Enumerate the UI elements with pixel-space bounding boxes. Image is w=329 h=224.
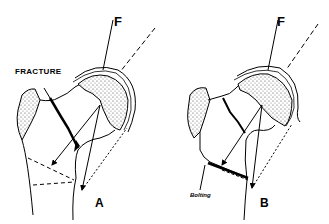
force-label-a: F [114, 14, 122, 29]
panel-label-a: A [95, 196, 104, 210]
diagram-canvas: F FRACTURE A F Bolting B [0, 0, 329, 224]
panel-label-b: B [260, 196, 269, 210]
panel-a [17, 20, 155, 220]
femur-diagram [0, 0, 329, 224]
panel-b [188, 20, 318, 220]
fracture-label: FRACTURE [15, 67, 61, 76]
bolting-label: Bolting [190, 192, 211, 198]
force-label-b: F [277, 14, 285, 29]
